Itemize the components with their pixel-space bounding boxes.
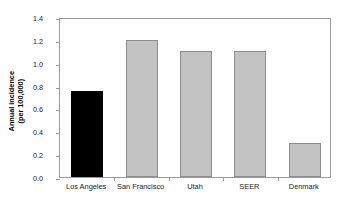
bar-utah <box>180 51 212 177</box>
y-axis-tick-mark <box>56 65 60 66</box>
y-axis-tick-mark <box>56 179 60 180</box>
x-axis-tick-mark <box>278 177 279 181</box>
y-axis-tick-mark <box>56 156 60 157</box>
y-axis-tick-label: 0.6 <box>3 107 43 114</box>
y-axis-tick-mark <box>56 133 60 134</box>
y-axis-tick-label: 1.2 <box>3 38 43 45</box>
y-axis-tick-mark <box>56 110 60 111</box>
plot-area: 0.00.20.40.60.81.01.21.4 <box>59 18 331 178</box>
x-axis-label-utah: Utah <box>187 183 203 190</box>
x-axis-label-san-francisco: San Francisco <box>117 183 164 190</box>
y-axis-tick-mark <box>56 42 60 43</box>
y-axis-tick-label: 0.8 <box>3 84 43 91</box>
x-axis-tick-mark <box>114 177 115 181</box>
y-axis-tick-mark <box>56 88 60 89</box>
y-axis-tick-label: 0.0 <box>3 175 43 182</box>
y-axis-title-line-1: Annual incidence <box>7 71 16 131</box>
y-axis-tick-label: 0.4 <box>3 130 43 137</box>
bar-los-angeles <box>71 91 103 177</box>
bar-san-francisco <box>126 40 158 177</box>
x-axis-label-denmark: Denmark <box>289 183 319 190</box>
bar-seer <box>234 51 266 177</box>
x-axis-tick-mark <box>223 177 224 181</box>
y-axis-tick-label: 1.4 <box>3 15 43 22</box>
y-axis-tick-label: 0.2 <box>3 153 43 160</box>
bar-chart-figure: Annual incidence (per 100,000) 0.00.20.4… <box>0 0 344 207</box>
bar-denmark <box>289 143 321 177</box>
y-axis-title: Annual incidence (per 100,000) <box>7 38 25 164</box>
x-axis-label-los-angeles: Los Angeles <box>66 183 106 190</box>
y-axis-tick-mark <box>56 19 60 20</box>
x-axis-label-seer: SEER <box>239 183 259 190</box>
y-axis-tick-label: 1.0 <box>3 61 43 68</box>
y-axis-title-line-2: (per 100,000) <box>16 38 25 164</box>
x-axis-tick-mark <box>169 177 170 181</box>
